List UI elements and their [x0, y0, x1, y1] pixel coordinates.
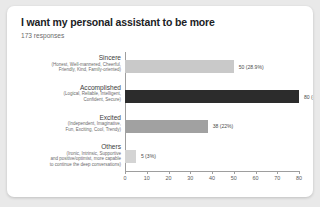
category-description-line: Friendly, Kind, Family-oriented) [21, 67, 121, 72]
x-tick-label: 30 [187, 175, 193, 181]
bar-row: Sincere(Honest, Well-mannered, Cheerful,… [21, 52, 303, 82]
bar-value-label: 5 (3%) [141, 153, 156, 159]
x-tick-label: 10 [144, 175, 150, 181]
x-tick-mark [125, 171, 126, 174]
bar[interactable] [125, 150, 136, 163]
x-tick-label: 40 [209, 175, 215, 181]
category-label: Sincere(Honest, Well-mannered, Cheerful,… [21, 54, 121, 72]
x-tick-mark [190, 171, 191, 174]
x-tick-label: 50 [231, 175, 237, 181]
category-label: Others(Ironic, Intrinsic, Supportiveand … [21, 143, 121, 167]
bar-row: Others(Ironic, Intrinsic, Supportiveand … [21, 141, 303, 171]
category-description-line: Fun, Exciting, Cool, Trendy) [21, 127, 121, 132]
category-description-line: to continue the deep conversations) [21, 162, 121, 167]
category-name: Sincere [21, 54, 121, 62]
category-name: Excited [21, 114, 121, 122]
x-axis-ticks: 01020304050607080 [125, 171, 299, 187]
x-tick-label: 20 [166, 175, 172, 181]
bar-track: 50 (28.9%) [125, 60, 299, 73]
bar-chart: Sincere(Honest, Well-mannered, Cheerful,… [21, 52, 303, 188]
bar-row: Accomplished(Logical, Reliable, Intellig… [21, 82, 303, 112]
bar-track: 38 (22%) [125, 120, 299, 133]
category-description-line: Confident, Secure) [21, 97, 121, 102]
category-label: Excited(Independent, Imaginative,Fun, Ex… [21, 114, 121, 132]
bar[interactable] [125, 120, 208, 133]
bar[interactable] [125, 90, 299, 103]
x-tick-label: 0 [124, 175, 127, 181]
bar-value-label: 38 (22%) [213, 123, 234, 129]
bar-row: Excited(Independent, Imaginative,Fun, Ex… [21, 112, 303, 142]
card-header: I want my personal assistant to be more … [21, 16, 291, 40]
x-tick-mark [299, 171, 300, 174]
bar-value-label: 80 (46.2%) [304, 94, 313, 100]
bar-track: 80 (46.2%) [125, 90, 299, 103]
x-tick-mark [147, 171, 148, 174]
page-title: I want my personal assistant to be more [21, 16, 291, 29]
category-name: Accomplished [21, 84, 121, 92]
response-count: 173 responses [21, 32, 291, 40]
bar[interactable] [125, 60, 234, 73]
bar-value-label: 50 (28.9%) [239, 64, 264, 70]
x-tick-mark [212, 171, 213, 174]
x-tick-mark [234, 171, 235, 174]
x-tick-mark [277, 171, 278, 174]
response-card: I want my personal assistant to be more … [7, 6, 313, 197]
x-tick-mark [169, 171, 170, 174]
bar-track: 5 (3%) [125, 150, 299, 163]
x-tick-mark [256, 171, 257, 174]
x-tick-label: 70 [274, 175, 280, 181]
x-tick-label: 60 [253, 175, 259, 181]
category-name: Others [21, 143, 121, 151]
category-label: Accomplished(Logical, Reliable, Intellig… [21, 84, 121, 102]
x-tick-label: 80 [296, 175, 302, 181]
